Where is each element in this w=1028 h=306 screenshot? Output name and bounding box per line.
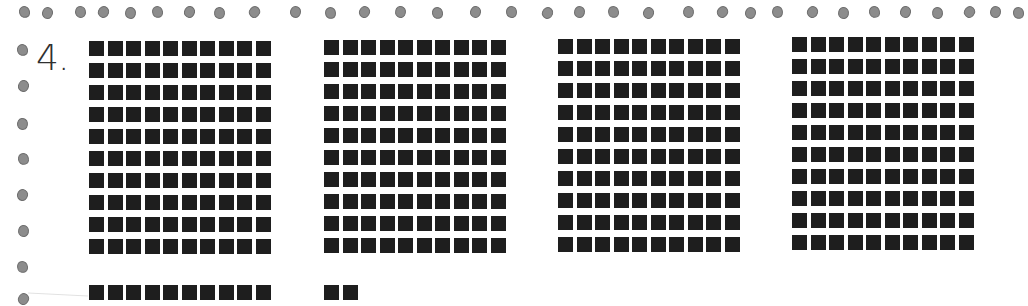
unit-square <box>688 127 703 142</box>
unit-square <box>89 107 104 122</box>
unit-square <box>922 59 937 74</box>
unit-square <box>380 216 395 231</box>
unit-square <box>903 169 918 184</box>
unit-square <box>725 215 740 230</box>
unit-square <box>472 194 487 209</box>
unit-square <box>491 40 506 55</box>
unit-square <box>577 105 592 120</box>
border-dot-icon <box>606 4 621 19</box>
unit-square <box>959 213 974 228</box>
unit-square <box>614 237 629 252</box>
border-dot-icon <box>394 5 406 18</box>
unit-square <box>866 81 881 96</box>
unit-square <box>343 62 358 77</box>
border-dot-icon <box>290 6 302 19</box>
unit-square <box>324 84 339 99</box>
scan-artifact-line <box>28 292 88 296</box>
unit-square <box>792 81 807 96</box>
unit-square <box>435 84 450 99</box>
unit-square <box>89 63 104 78</box>
unit-square <box>163 107 178 122</box>
unit-square <box>829 147 844 162</box>
unit-square <box>959 147 974 162</box>
unit-square <box>361 40 376 55</box>
unit-square <box>380 150 395 165</box>
unit-square <box>324 238 339 253</box>
unit-square <box>885 59 900 74</box>
unit-square <box>435 238 450 253</box>
unit-square <box>706 215 721 230</box>
unit-square <box>256 107 271 122</box>
unit-square <box>108 195 123 210</box>
unit-square <box>361 172 376 187</box>
unit-square <box>725 149 740 164</box>
unit-square <box>829 125 844 140</box>
border-dot-icon <box>745 7 757 20</box>
unit-square <box>324 40 339 55</box>
unit-square <box>866 125 881 140</box>
unit-square <box>866 59 881 74</box>
unit-square <box>792 125 807 140</box>
unit-square <box>940 213 955 228</box>
unit-square <box>792 147 807 162</box>
unit-square <box>706 39 721 54</box>
unit-square <box>632 105 647 120</box>
border-dot-icon <box>867 4 882 20</box>
unit-square <box>256 41 271 56</box>
unit-square <box>108 151 123 166</box>
unit-square <box>182 285 197 300</box>
unit-square <box>89 129 104 144</box>
unit-square <box>866 213 881 228</box>
unit-square <box>219 107 234 122</box>
unit-square <box>866 147 881 162</box>
unit-square <box>145 41 160 56</box>
unit-square <box>885 147 900 162</box>
unit-square <box>866 103 881 118</box>
unit-square <box>632 171 647 186</box>
border-dot-icon <box>247 4 262 20</box>
unit-square <box>256 85 271 100</box>
unit-square <box>89 239 104 254</box>
unit-square <box>472 150 487 165</box>
unit-square <box>163 217 178 232</box>
unit-square <box>398 106 413 121</box>
unit-square <box>725 237 740 252</box>
unit-square <box>219 85 234 100</box>
border-dot-icon <box>805 5 819 20</box>
unit-square <box>256 151 271 166</box>
unit-square <box>903 235 918 250</box>
unit-square <box>361 150 376 165</box>
unit-square <box>706 171 721 186</box>
unit-square <box>256 285 271 300</box>
unit-square <box>922 213 937 228</box>
problem-number: 4. <box>36 38 68 78</box>
unit-square <box>417 106 432 121</box>
unit-square <box>811 191 826 206</box>
unit-square <box>324 172 339 187</box>
unit-square <box>959 169 974 184</box>
unit-square <box>903 125 918 140</box>
unit-square <box>577 61 592 76</box>
unit-square <box>145 195 160 210</box>
unit-square <box>417 128 432 143</box>
unit-square <box>200 285 215 300</box>
unit-square <box>848 59 863 74</box>
unit-square <box>558 215 573 230</box>
unit-square <box>577 149 592 164</box>
unit-square <box>632 149 647 164</box>
unit-square <box>829 235 844 250</box>
unit-square <box>324 150 339 165</box>
unit-square <box>361 84 376 99</box>
unit-square <box>829 59 844 74</box>
unit-square <box>145 285 160 300</box>
unit-square <box>829 191 844 206</box>
unit-square <box>182 63 197 78</box>
unit-square <box>669 105 684 120</box>
border-dot-icon <box>17 4 33 20</box>
unit-square <box>848 235 863 250</box>
unit-square <box>688 171 703 186</box>
unit-square <box>885 235 900 250</box>
unit-square <box>163 151 178 166</box>
unit-square <box>866 191 881 206</box>
unit-square <box>324 194 339 209</box>
